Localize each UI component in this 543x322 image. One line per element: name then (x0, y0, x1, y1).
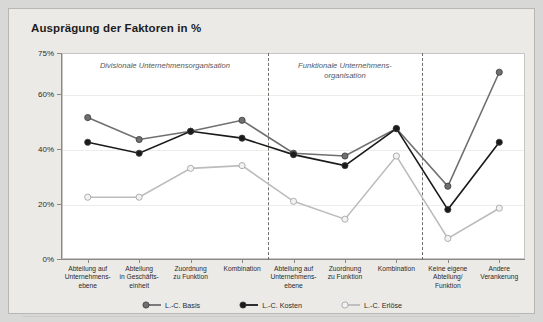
data-point[interactable] (136, 150, 142, 156)
series-layer (62, 53, 525, 260)
x-axis-label-line: Abteilung (125, 265, 153, 272)
data-point[interactable] (445, 183, 451, 189)
x-axis-label-line: ebene (78, 282, 97, 289)
y-axis-tick-label: 40% (9, 145, 54, 154)
x-axis-label-line: Abteilung/ (433, 273, 463, 280)
legend-marker-icon (238, 300, 258, 310)
y-axis-tick (57, 149, 61, 150)
series-line (88, 72, 500, 186)
x-axis-label-line: ebene (284, 282, 303, 289)
legend-item[interactable]: L.-C. Kosten (238, 300, 302, 310)
data-point[interactable] (393, 125, 399, 131)
x-axis-label-line: zu Funktion (328, 273, 363, 280)
chart-card: Ausprägung der Faktoren in % 75%60%40%20… (8, 8, 535, 314)
legend-label: L.-C. Kosten (262, 301, 302, 310)
data-point[interactable] (85, 139, 91, 145)
data-point[interactable] (496, 139, 502, 145)
y-axis-tick-label: 0% (9, 255, 54, 264)
data-point[interactable] (496, 205, 502, 211)
x-axis-label-line: Zuordnung (174, 265, 206, 272)
data-point[interactable] (342, 153, 348, 159)
data-point[interactable] (136, 136, 142, 142)
legend-label: L.-C. Erlöse (364, 301, 402, 310)
data-point[interactable] (445, 206, 451, 212)
series-line (88, 156, 500, 238)
data-point[interactable] (85, 194, 91, 200)
data-point[interactable] (239, 117, 245, 123)
data-point[interactable] (136, 194, 142, 200)
data-point[interactable] (496, 69, 502, 75)
y-axis-tick (57, 204, 61, 205)
legend-marker-icon (141, 300, 161, 310)
data-point[interactable] (188, 128, 194, 134)
y-axis-tick-label: 20% (9, 200, 54, 209)
data-point[interactable] (342, 216, 348, 222)
x-axis-tick-label: AndereVerankerung (460, 265, 538, 282)
y-axis-tick (57, 53, 61, 54)
x-axis-label-line: zu Funktion (173, 273, 208, 280)
legend-item[interactable]: L.-C. Erlöse (340, 300, 402, 310)
page-title: Ausprägung der Faktoren in % (31, 22, 201, 34)
x-axis-label-line: Verankerung (480, 273, 518, 280)
series-line (88, 129, 500, 210)
y-axis-tick (57, 259, 61, 260)
data-point[interactable] (239, 163, 245, 169)
y-axis-tick-label: 75% (9, 49, 54, 58)
legend-marker-icon (340, 300, 360, 310)
y-axis-tick (57, 94, 61, 95)
x-axis-label-line: Andere (488, 265, 510, 272)
x-axis-label-line: Funktion (435, 282, 461, 289)
data-point[interactable] (239, 135, 245, 141)
legend-divider-rule (23, 316, 520, 317)
y-axis-tick-label: 60% (9, 90, 54, 99)
data-point[interactable] (188, 165, 194, 171)
chart-legend: L.-C. BasisL.-C. KostenL.-C. Erlöse (9, 297, 534, 313)
x-axis-label-line: einheit (129, 282, 149, 289)
legend-item[interactable]: L.-C. Basis (141, 300, 200, 310)
data-point[interactable] (290, 198, 296, 204)
data-point[interactable] (85, 114, 91, 120)
data-point[interactable] (445, 235, 451, 241)
data-point[interactable] (342, 163, 348, 169)
x-axis-label-line: Zuordnung (329, 265, 361, 272)
legend-label: L.-C. Basis (165, 301, 200, 310)
data-point[interactable] (393, 153, 399, 159)
data-point[interactable] (290, 152, 296, 158)
